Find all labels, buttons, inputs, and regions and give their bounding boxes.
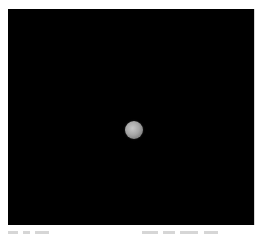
page (0, 0, 262, 237)
truncated-text-fragment (163, 231, 175, 234)
render-viewport[interactable] (8, 9, 255, 225)
truncated-text-fragment (204, 231, 218, 234)
truncated-text-fragment (23, 231, 30, 234)
truncated-text-fragment (180, 231, 198, 234)
caption-left (8, 229, 52, 237)
sphere-object[interactable] (125, 121, 143, 139)
caption-right (142, 229, 221, 237)
truncated-text-fragment (8, 231, 18, 234)
truncated-text-fragment (35, 231, 49, 234)
caption-row (8, 229, 254, 237)
truncated-text-fragment (142, 231, 158, 234)
